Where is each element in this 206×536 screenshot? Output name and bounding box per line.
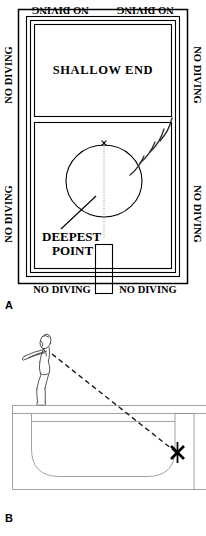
deepest-point-leader-line [61, 196, 96, 229]
sign-left-upper: NO DIVING [3, 46, 14, 103]
panel-a-label: A [5, 300, 13, 311]
sign-bottom-left: NO DIVING [33, 284, 90, 295]
splash-arc-lines [130, 118, 172, 175]
impact-x-marker [171, 442, 184, 463]
sign-right-upper: NO DIVING [192, 46, 203, 103]
panel-b-label: B [5, 513, 13, 524]
sign-bottom-right: NO DIVING [119, 284, 176, 295]
diver-figure [22, 333, 52, 405]
sign-left-lower: NO DIVING [3, 185, 14, 242]
figure-pool-diving-safety: DEEPEST POINT SHALLOW END NO DIVING NO D… [0, 0, 206, 536]
panel-a-overhead-plan: DEEPEST POINT SHALLOW END NO DIVING NO D… [0, 0, 206, 300]
pool-basin-profile [32, 414, 176, 477]
sign-top-left: NO DIVING [31, 5, 88, 16]
dive-trajectory-dashed-line [52, 354, 177, 453]
sign-top-right: NO DIVING [116, 5, 173, 16]
deepest-point-label-line2: POINT [52, 243, 94, 258]
deepest-point-label-line1: DEEPEST [42, 229, 102, 244]
sign-right-lower: NO DIVING [192, 185, 203, 242]
shallow-end-label: SHALLOW END [53, 63, 154, 77]
panel-b-cross-section [0, 325, 206, 525]
